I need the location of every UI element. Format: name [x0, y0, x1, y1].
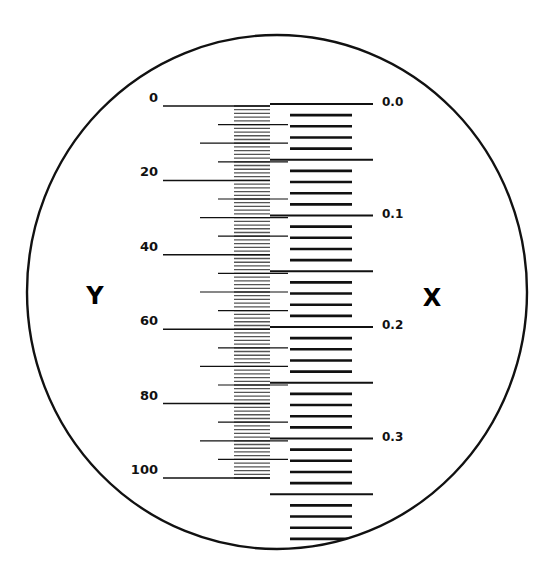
- x-scale-ticks: [270, 104, 373, 550]
- y-scale-label: 40: [140, 239, 158, 254]
- x-scale-label: 0.0: [382, 95, 403, 109]
- x-scale-labels: 0.00.10.20.3: [382, 95, 403, 444]
- x-scale-label: 0.1: [382, 207, 403, 221]
- y-scale-label: 100: [131, 462, 158, 477]
- x-scale-label: 0.2: [382, 318, 403, 332]
- y-axis-letter: Y: [85, 282, 104, 310]
- x-axis-letter: X: [423, 284, 442, 312]
- x-scale-label: 0.3: [382, 430, 403, 444]
- y-scale-label: 20: [140, 164, 158, 179]
- y-scale-label: 60: [140, 313, 158, 328]
- y-scale-labels: 020406080100: [131, 90, 158, 477]
- y-scale-label: 80: [140, 388, 158, 403]
- y-scale-ticks: [163, 106, 288, 478]
- reticle-diagram: 020406080100 0.00.10.20.3 Y X: [0, 0, 555, 570]
- y-scale-label: 0: [149, 90, 158, 105]
- scales-group: [163, 104, 373, 550]
